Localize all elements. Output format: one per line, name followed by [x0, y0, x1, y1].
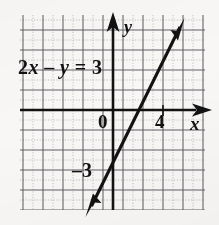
y-axis-label: y — [124, 18, 132, 36]
equation-label: 2x – y = 3 — [18, 57, 102, 77]
equation-equals-sign: = — [69, 56, 92, 78]
x-axis-label: x — [190, 114, 200, 133]
equation-right-hand-side: 3 — [92, 56, 102, 78]
x-axis-tick-label-4: 4 — [155, 112, 165, 131]
equation-minus-sign: – — [39, 56, 60, 78]
graph-figure: 2x – y = 3 0 4 –3 x y — [0, 0, 219, 225]
coordinate-plane — [0, 0, 219, 225]
origin-label: 0 — [98, 112, 108, 131]
equation-variable-x: x — [28, 56, 38, 78]
equation-coefficient: 2 — [18, 56, 28, 78]
equation-variable-y: y — [60, 56, 69, 78]
y-intercept-label: –3 — [72, 160, 92, 180]
